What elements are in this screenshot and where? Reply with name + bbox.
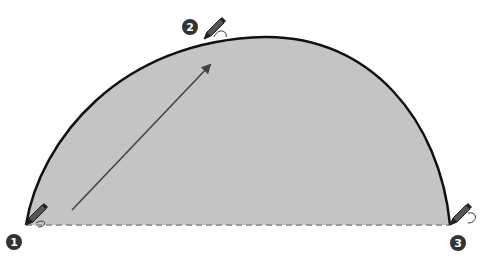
point-badge-label: 1 bbox=[10, 236, 18, 249]
point-badge-2: 2 bbox=[182, 19, 198, 35]
pencil-icon-point-2 bbox=[204, 17, 226, 39]
point-badge-3: 3 bbox=[450, 235, 466, 251]
point-badge-label: 3 bbox=[454, 237, 462, 250]
point-badge-1: 1 bbox=[6, 234, 22, 250]
arc-fill-region bbox=[26, 37, 450, 225]
pencil-icon-point-3 bbox=[450, 203, 476, 225]
point-badge-label: 2 bbox=[186, 21, 194, 34]
three-point-arc-diagram: 1 2 3 bbox=[0, 0, 481, 263]
